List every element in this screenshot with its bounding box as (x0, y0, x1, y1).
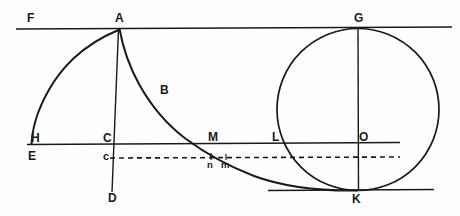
point-label-b: B (160, 84, 169, 96)
figure-canvas (0, 0, 460, 216)
point-label-m-upper: M (208, 131, 218, 143)
point-label-l: L (272, 131, 279, 143)
point-label-a: A (115, 12, 124, 24)
vertical-line-gok (358, 29, 359, 191)
point-label-n-lower: n (207, 160, 213, 170)
point-label-f: F (27, 12, 34, 24)
arc-curve-ah (32, 30, 119, 144)
cycloid-curve-abmk (120, 29, 358, 191)
point-label-c-lower: c (103, 151, 109, 162)
point-label-d: D (108, 192, 117, 204)
point-label-c-upper: C (103, 132, 112, 144)
top-horizontal-line (16, 27, 452, 29)
point-label-k: K (352, 193, 361, 205)
point-label-e: E (28, 150, 36, 162)
vertical-line-acd (112, 29, 119, 192)
point-label-o: O (359, 131, 368, 143)
dashed-horizontal-line (110, 157, 400, 158)
point-label-g: G (354, 12, 363, 24)
point-label-m-lower: m (221, 160, 229, 170)
geometry-figure: F A G B H C M L O E c n m D K (0, 0, 460, 216)
point-label-h: H (31, 132, 40, 144)
